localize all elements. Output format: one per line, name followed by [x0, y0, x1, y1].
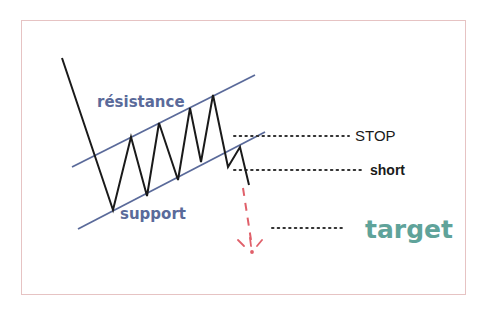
price-path	[62, 58, 249, 210]
projection-arrow	[243, 188, 251, 240]
short-label: short	[370, 163, 405, 177]
impact-burst-icon	[238, 238, 262, 253]
support-label: support	[120, 207, 186, 222]
chart-graphics	[0, 0, 486, 312]
resistance-line	[72, 75, 255, 167]
target-label: target	[365, 217, 453, 242]
resistance-label: résistance	[97, 95, 185, 110]
stop-label: STOP	[355, 128, 396, 143]
diagram-canvas: résistance support STOP short target	[0, 0, 486, 312]
